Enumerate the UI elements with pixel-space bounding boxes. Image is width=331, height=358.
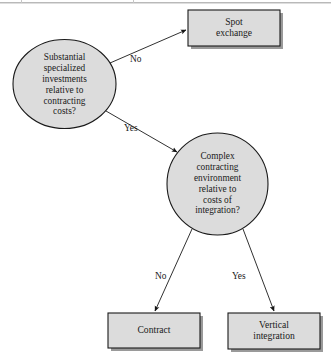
edge-investments-to-complex-contracting — [106, 111, 177, 152]
diagram-canvas — [0, 0, 331, 358]
node-contract — [108, 313, 200, 348]
edge-label-yes-vertical-integration: Yes — [232, 272, 246, 281]
node-spot-exchange — [188, 10, 280, 46]
edge-complex-contracting-to-vertical-integration — [243, 229, 274, 311]
node-vertical-integration — [228, 313, 320, 349]
edge-label-no-contract: No — [155, 272, 166, 281]
edge-label-no-spot-exchange: No — [130, 55, 141, 64]
node-substantial-investments — [13, 40, 116, 129]
node-complex-contracting — [167, 133, 268, 235]
edge-label-yes-complex-contracting: Yes — [124, 124, 138, 133]
edge-complex-contracting-to-contract — [155, 229, 192, 311]
edge-investments-to-spot-exchange — [110, 30, 186, 63]
flowchart-diagram: Substantial specialized investments rela… — [0, 0, 331, 358]
